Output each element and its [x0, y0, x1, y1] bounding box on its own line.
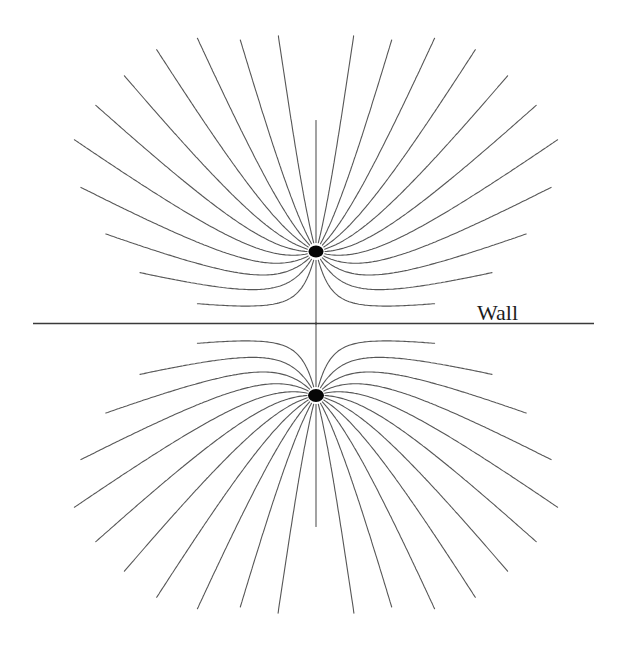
streamline [324, 187, 551, 263]
streamline [325, 105, 536, 251]
lower-source-dot [308, 389, 324, 402]
streamline [74, 140, 307, 255]
streamline [240, 40, 311, 244]
streamline [74, 392, 307, 507]
streamline [96, 396, 307, 542]
streamline [157, 400, 309, 597]
streamline [318, 404, 354, 613]
streamline [81, 187, 308, 263]
streamline-diagram: Wall [0, 0, 628, 645]
streamline [324, 384, 551, 460]
streamline [140, 357, 312, 387]
streamline [81, 384, 308, 460]
streamline [325, 140, 558, 255]
streamline [321, 357, 493, 387]
wall-label: Wall [477, 300, 518, 325]
streamline [278, 404, 314, 613]
upper-source-dot [309, 246, 324, 258]
streamline [278, 36, 313, 243]
streamline [324, 50, 476, 247]
streamline [321, 259, 493, 289]
streamline [157, 50, 309, 247]
streamline [321, 40, 392, 244]
streamline [325, 392, 558, 507]
figure-page: Wall [0, 0, 628, 645]
streamline [324, 400, 476, 597]
streamline [325, 396, 536, 542]
streamline [318, 36, 353, 243]
streamline [96, 105, 307, 251]
streamline [140, 259, 312, 289]
streamline [321, 403, 392, 607]
streamline [240, 403, 311, 607]
